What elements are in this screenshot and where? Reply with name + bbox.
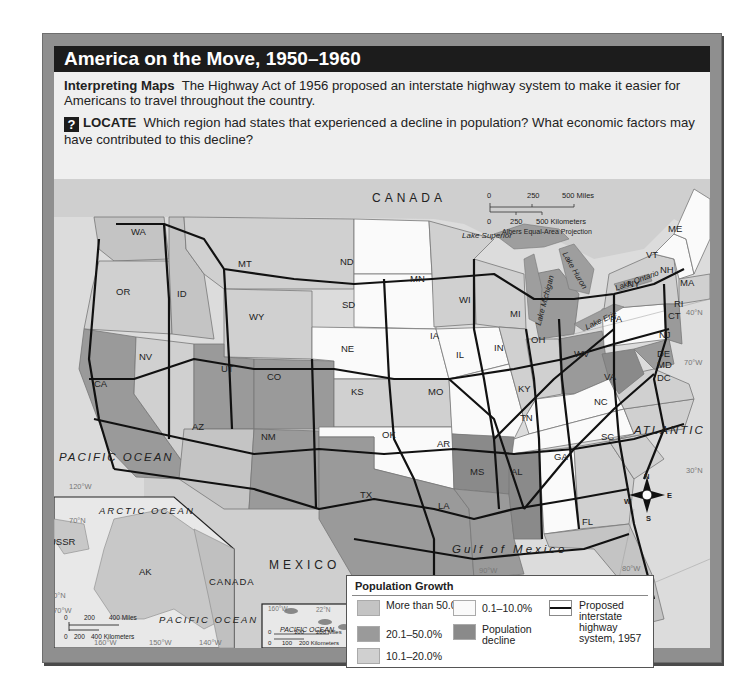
grid-90w: 90°W (479, 566, 497, 575)
legend-label-10-20: 10.1–20.0% (386, 648, 442, 662)
ak-scale-km-200: 200 (74, 633, 85, 640)
state-mt: MT (238, 258, 252, 269)
map-title: America on the Move, 1950–1960 (54, 46, 710, 72)
state-md: MD (657, 359, 672, 370)
ak-label-pacific-ocean: PACIFIC OCEAN (159, 613, 224, 626)
state-wv: WV (574, 348, 589, 359)
state-ct: CT (668, 310, 681, 321)
state-nv: NV (139, 351, 152, 362)
state-va: VA (604, 371, 616, 382)
scale-miles-0: 0 (487, 191, 491, 200)
scale-km-250: 250 (510, 217, 523, 226)
state-wi: WI (459, 294, 471, 305)
state-co: CO (267, 371, 281, 382)
state-ia: IA (430, 330, 439, 341)
state-in: IN (494, 342, 504, 353)
hi-scale-km-200: 200 Kilometers (299, 640, 339, 646)
state-ks: KS (351, 386, 364, 397)
grid-40n: 40°N (686, 308, 703, 317)
hi-scale-miles-200: 200 Miles (316, 629, 342, 635)
state-al: AL (511, 466, 523, 477)
compass-e: E (667, 491, 672, 500)
state-wa: WA (131, 226, 146, 237)
ak-scale-km-0: 0 (64, 633, 68, 640)
compass-s: S (646, 514, 651, 523)
label-gulf-of-mexico: Gulf of Mexico (452, 543, 568, 556)
legend-item-decline: Population decline (453, 624, 543, 646)
label-mexico: MEXICO (269, 558, 340, 572)
state-nj: NJ (659, 329, 671, 340)
hi-scale-miles-100: 100 (294, 629, 304, 635)
ak-grid-60n: 60°N (54, 591, 66, 600)
question-icon: ? (64, 117, 79, 132)
state-az: AZ (192, 421, 204, 432)
state-mo: MO (428, 386, 443, 397)
legend-label-20-50: 20.1–50.0% (386, 626, 442, 640)
compass-w: W (624, 497, 631, 506)
legend-swatch-more-than-50 (357, 600, 380, 616)
state-nm: NM (261, 431, 276, 442)
scale-km-0: 0 (487, 217, 491, 226)
state-ga: GA (554, 451, 568, 462)
locate-question: ?LOCATE Which region had states that exp… (64, 115, 700, 147)
state-pa: PA (610, 313, 622, 324)
map-panel: America on the Move, 1950–1960 Interpret… (54, 46, 710, 648)
interpreting-maps-heading: Interpreting Maps (64, 78, 175, 93)
ak-grid-70n: 70°N (69, 516, 86, 525)
locate-question-text: Which region had states that experienced… (64, 115, 695, 147)
ak-scale-km-400: 400 Kilometers (91, 633, 134, 640)
interpreting-maps-paragraph: Interpreting Maps The Highway Act of 195… (64, 78, 700, 108)
intro-text: Interpreting Maps The Highway Act of 195… (54, 72, 710, 179)
map-frame: America on the Move, 1950–1960 Interpret… (42, 33, 722, 663)
state-il: IL (456, 349, 464, 360)
legend-item-10-20: 10.1–20.0% (357, 648, 467, 664)
ak-grid-140w: 140°W (199, 638, 222, 647)
locate-label: LOCATE (83, 115, 136, 130)
state-nc: NC (594, 396, 608, 407)
hi-scale-km-0: 0 (268, 640, 271, 646)
ak-label-ussr: USSR (54, 536, 75, 547)
ak-scale-miles-0: 0 (64, 614, 68, 621)
grid-70w: 70°W (684, 358, 702, 367)
scale-km-500: 500 Kilometers (536, 217, 586, 226)
legend-label-highway: Proposed interstate highway system, 1957 (579, 600, 653, 644)
state-ma: MA (680, 277, 694, 288)
state-tx: TX (360, 489, 372, 500)
state-me: ME (668, 223, 682, 234)
state-ok: OK (382, 429, 396, 440)
state-ar: AR (437, 438, 450, 449)
state-ut: UT (221, 363, 234, 374)
hi-grid-160w: 160°W (268, 605, 288, 612)
label-pacific-ocean: PACIFIC OCEAN (59, 451, 139, 464)
legend-highway-line-icon (549, 600, 572, 616)
state-tn: TN (520, 412, 533, 423)
hi-scale-km-100: 100 (282, 640, 292, 646)
state-ne: NE (341, 343, 354, 354)
state-la: LA (438, 500, 450, 511)
grid-120w: 120°W (69, 482, 92, 491)
scale-miles-500: 500 Miles (562, 191, 594, 200)
state-wy: WY (249, 311, 264, 322)
legend-item-highway: Proposed interstate highway system, 1957 (549, 600, 653, 644)
state-mn: MN (410, 273, 425, 284)
state-fl: FL (582, 516, 593, 527)
ak-grid-170w: 170°W (54, 606, 72, 615)
legend-swatch-20-50 (357, 626, 380, 642)
legend-item-20-50: 20.1–50.0% (357, 626, 467, 642)
population-growth-legend: Population Growth More than 50.0% 20.1–5… (346, 575, 654, 668)
legend-label-0-10: 0.1–10.0% (482, 600, 532, 614)
projection-label: Albers Equal-Area Projection (502, 228, 592, 235)
legend-swatch-decline (453, 624, 476, 640)
state-nd: ND (340, 256, 354, 267)
compass-n: N (644, 472, 649, 481)
state-ny: NY (627, 278, 640, 289)
ak-label-state: AK (139, 566, 152, 577)
ak-scale-miles-400: 400 Miles (109, 614, 137, 621)
state-sd: SD (342, 299, 355, 310)
legend-divider (352, 595, 648, 596)
state-nh: NH (660, 264, 674, 275)
legend-swatch-10-20 (357, 648, 380, 664)
state-oh: OH (531, 334, 545, 345)
label-atlantic-ocean: ATLANTIC OCEAN (634, 424, 704, 437)
legend-swatch-0-10 (453, 600, 476, 616)
